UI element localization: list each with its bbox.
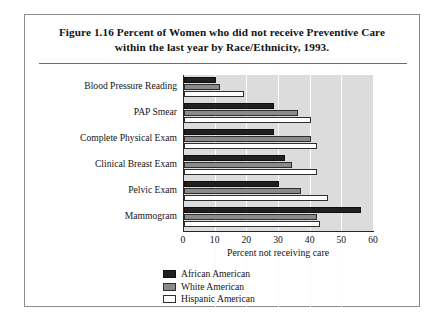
bar-african [184,129,274,135]
bars-wrapper [184,205,374,231]
bar-african [184,103,274,109]
x-tick-label: 50 [328,233,354,246]
legend-item: Hispanic American [163,293,363,306]
bars-wrapper [184,75,374,101]
bar-african [184,181,279,187]
legend-item: White American [163,281,363,294]
legend-swatch-icon [163,283,176,291]
legend-swatch-icon [163,295,176,303]
chart-legend: African AmericanWhite AmericanHispanic A… [163,268,363,306]
bar-african [184,77,216,83]
bar-white [184,162,292,168]
bar-group: Pelvic Exam [25,179,421,205]
title-divider [39,63,407,64]
chart-area: Blood Pressure ReadingPAP SmearComplete … [25,69,421,308]
bar-group: Blood Pressure Reading [25,75,421,101]
figure-title-line-2: within the last year by Race/Ethnicity, … [25,40,419,55]
category-label: Mammogram [27,210,177,222]
bars-wrapper [184,101,374,127]
bar-hispanic [184,195,328,201]
bar-hispanic [184,91,244,97]
legend-label: African American [181,268,250,280]
bar-group: Mammogram [25,205,421,231]
legend-swatch-icon [163,270,176,278]
bar-white [184,84,220,90]
bars-wrapper [184,127,374,153]
x-tick-label: 20 [233,233,259,246]
x-axis-title: Percent not receiving care [183,246,373,259]
bar-hispanic [184,117,311,123]
x-axis-line [183,231,374,232]
bar-african [184,155,285,161]
category-label: Blood Pressure Reading [27,80,177,92]
x-axis-tick-labels: 0102030405060 [183,233,373,247]
bar-african [184,207,361,213]
category-label: PAP Smear [27,106,177,118]
bars-wrapper [184,153,374,179]
bar-group: Clinical Breast Exam [25,153,421,179]
bar-white [184,214,317,220]
category-label: Complete Physical Exam [27,132,177,144]
bar-white [184,136,311,142]
category-label: Clinical Breast Exam [27,158,177,170]
bar-white [184,188,301,194]
legend-label: White American [181,281,244,293]
x-tick-label: 0 [170,233,196,246]
legend-label: Hispanic American [181,293,255,305]
legend-item: African American [163,268,363,281]
figure-title-line-1: Figure 1.16 Percent of Women who did not… [25,25,419,40]
x-tick-label: 10 [202,233,228,246]
category-label: Pelvic Exam [27,184,177,196]
bar-hispanic [184,169,317,175]
x-tick-label: 30 [265,233,291,246]
bar-group: PAP Smear [25,101,421,127]
bar-group: Complete Physical Exam [25,127,421,153]
bar-hispanic [184,143,317,149]
x-tick-label: 40 [297,233,323,246]
bar-white [184,110,298,116]
x-tick-label: 60 [360,233,386,246]
figure-title: Figure 1.16 Percent of Women who did not… [25,25,419,54]
bars-wrapper [184,179,374,205]
figure-container: Figure 1.16 Percent of Women who did not… [24,14,420,307]
bar-hispanic [184,221,320,227]
